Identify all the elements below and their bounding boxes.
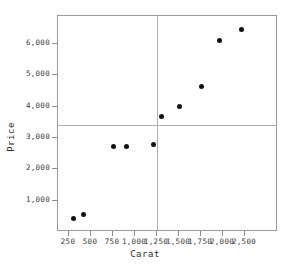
y-axis-tick [52,106,57,107]
x-axis-tick [156,231,157,236]
x-axis-tick [222,231,223,236]
y-axis-tick [52,168,57,169]
x-axis-tick [112,231,113,236]
y-axis-tick-label: 5,000 [26,69,50,78]
y-axis-title: Price [4,0,18,273]
x-axis-title-label: Carat [130,249,160,259]
x-axis-title: Carat [0,249,290,259]
data-point [159,114,164,119]
y-axis-tick-label: 6,000 [26,38,50,47]
reference-line-vertical [157,16,158,230]
data-point [71,216,76,221]
data-point [177,104,182,109]
data-point [151,142,156,147]
y-axis-tick [52,43,57,44]
x-axis-tick-label: 1,750 [188,237,212,246]
x-axis-tick-label: 2,500 [232,237,256,246]
x-axis-tick [244,231,245,236]
data-point [199,84,204,89]
x-axis-tick-label: 1,500 [166,237,190,246]
y-axis-tick-label: 4,000 [26,101,50,110]
data-point [81,212,86,217]
x-axis-tick-label: 2,000 [210,237,234,246]
data-point [111,144,116,149]
reference-line-horizontal [58,125,276,126]
y-axis-tick-label: 2,000 [26,163,50,172]
scatter-chart: Price Carat 1,0002,0003,0004,0005,0006,0… [0,0,290,273]
x-axis-tick-label: 250 [61,237,75,246]
y-axis-tick [52,137,57,138]
x-axis-tick-label: 750 [105,237,119,246]
data-point [239,27,244,32]
data-point [124,144,129,149]
x-axis-tick [178,231,179,236]
x-axis-tick [90,231,91,236]
y-axis-tick-label: 1,000 [26,195,50,204]
plot-area [57,15,277,231]
x-axis-tick [134,231,135,236]
y-axis-title-label: Price [6,122,16,152]
y-axis-tick-label: 3,000 [26,132,50,141]
x-axis-tick-label: 1,250 [144,237,168,246]
y-axis-tick [52,74,57,75]
x-axis-tick [200,231,201,236]
x-axis-tick-label: 500 [83,237,97,246]
x-axis-tick [68,231,69,236]
y-axis-tick [52,200,57,201]
data-point [217,38,222,43]
x-axis-tick-label: 1,000 [122,237,146,246]
